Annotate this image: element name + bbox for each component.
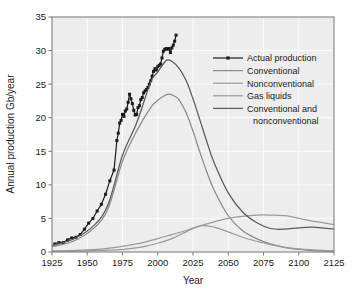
- data-point-marker: [138, 104, 141, 107]
- data-point-marker: [128, 93, 131, 96]
- data-point-marker: [122, 115, 125, 118]
- data-point-marker: [170, 46, 173, 49]
- x-tick-label: 2125: [323, 257, 344, 268]
- data-point-marker: [115, 139, 118, 142]
- legend-item-label: Nonconventional: [247, 79, 314, 89]
- x-tick-label: 1925: [41, 257, 62, 268]
- y-tick-label: 25: [35, 79, 46, 90]
- legend-item-label: nonconventional: [253, 116, 319, 126]
- y-tick-label: 0: [41, 246, 46, 257]
- data-point-marker: [129, 97, 132, 100]
- data-point-marker: [152, 70, 155, 73]
- data-point-marker: [120, 119, 123, 122]
- data-point-marker: [159, 63, 162, 66]
- legend-item-label: Conventional and: [247, 104, 317, 114]
- chart-canvas: 192519501975200020252050207521002125 051…: [0, 0, 352, 292]
- legend-item-label: Conventional: [247, 66, 300, 76]
- data-point-marker: [127, 101, 130, 104]
- data-point-marker: [160, 56, 163, 59]
- data-point-marker: [141, 96, 144, 99]
- x-axis-title: Year: [183, 275, 204, 286]
- legend-item-label: Gas liquids: [247, 91, 292, 101]
- y-tick-label: 5: [41, 213, 46, 224]
- data-point-marker: [117, 132, 120, 135]
- data-point-marker: [168, 47, 171, 50]
- y-tick-label: 35: [35, 11, 46, 22]
- x-tick-label: 2050: [218, 257, 239, 268]
- data-point-marker: [135, 113, 138, 116]
- x-tick-label: 1950: [77, 257, 98, 268]
- x-tick-label: 1975: [112, 257, 133, 268]
- x-tick-label: 2100: [288, 257, 309, 268]
- data-point-marker: [113, 169, 116, 172]
- x-tick-label: 2025: [182, 257, 203, 268]
- y-tick-label: 15: [35, 146, 46, 157]
- y-axis-ticks: 05101520253035: [35, 11, 52, 257]
- data-point-marker: [118, 122, 121, 125]
- y-tick-label: 10: [35, 179, 46, 190]
- legend-item-label: Actual production: [247, 53, 317, 63]
- data-point-marker: [100, 203, 103, 206]
- data-point-marker: [87, 222, 90, 225]
- x-axis-ticks: 192519501975200020252050207521002125: [41, 252, 344, 268]
- data-point-marker: [155, 69, 158, 72]
- data-point-marker: [169, 51, 172, 54]
- legend-marker-sample: [226, 56, 229, 59]
- x-tick-label: 2000: [147, 257, 168, 268]
- data-point-marker: [132, 109, 135, 112]
- data-point-marker: [125, 107, 128, 110]
- data-point-marker: [173, 40, 176, 43]
- y-axis-title: Annual production Gb/year: [5, 74, 16, 194]
- y-tick-label: 20: [35, 112, 46, 123]
- y-tick-label: 30: [35, 45, 46, 56]
- data-point-marker: [91, 217, 94, 220]
- data-point-marker: [104, 193, 107, 196]
- data-point-marker: [83, 228, 86, 231]
- chart-figure: 192519501975200020252050207521002125 051…: [0, 0, 352, 292]
- data-point-marker: [131, 102, 134, 105]
- data-point-marker: [96, 210, 99, 213]
- data-point-marker: [172, 44, 175, 47]
- data-point-marker: [175, 34, 178, 37]
- x-tick-label: 2075: [253, 257, 274, 268]
- data-point-marker: [108, 179, 111, 182]
